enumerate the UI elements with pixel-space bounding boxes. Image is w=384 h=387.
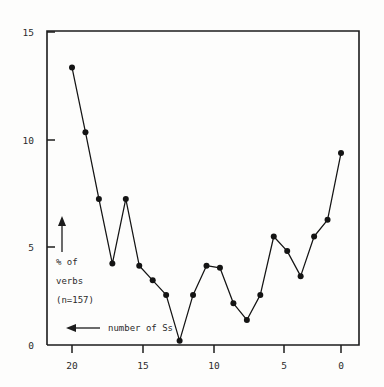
data-point bbox=[325, 217, 331, 223]
data-point bbox=[96, 196, 102, 202]
data-point bbox=[190, 292, 196, 298]
data-point bbox=[163, 292, 169, 298]
data-point bbox=[69, 64, 75, 70]
data-point bbox=[298, 273, 304, 279]
data-point bbox=[338, 150, 344, 156]
line-chart-plot: 15 10 5 0 20 15 10 5 0 % of verbs (n=157… bbox=[0, 0, 384, 387]
data-point bbox=[177, 338, 183, 344]
y-axis-ticks bbox=[47, 32, 55, 247]
data-point bbox=[244, 317, 250, 323]
data-point bbox=[284, 248, 290, 254]
data-point bbox=[204, 263, 210, 269]
data-point bbox=[109, 261, 115, 267]
y-axis-arrow-up-icon bbox=[58, 216, 66, 252]
data-point bbox=[271, 233, 277, 239]
x-axis-caption: number of Ss bbox=[108, 323, 173, 333]
y-axis-label-line-2: verbs bbox=[56, 276, 83, 286]
data-point bbox=[230, 300, 236, 306]
y-axis-label-line-1: % of bbox=[56, 257, 78, 267]
data-point bbox=[123, 196, 129, 202]
y-axis-tick-label-5: 5 bbox=[28, 242, 34, 253]
x-axis-arrow-left-icon bbox=[66, 324, 100, 332]
x-axis-tick-label-15: 15 bbox=[137, 360, 148, 371]
data-point bbox=[217, 265, 223, 271]
x-axis-tick-label-10: 10 bbox=[208, 360, 220, 371]
chart-figure: 15 10 5 0 20 15 10 5 0 % of verbs (n=157… bbox=[0, 0, 384, 387]
series-markers-group bbox=[69, 64, 344, 343]
y-axis-tick-label-10: 10 bbox=[23, 135, 35, 146]
data-point bbox=[150, 277, 156, 283]
x-axis-tick-label-0: 0 bbox=[338, 360, 344, 371]
x-axis-ticks bbox=[72, 345, 341, 353]
y-axis-tick-label-15: 15 bbox=[23, 27, 34, 38]
x-axis-tick-label-20: 20 bbox=[66, 360, 78, 371]
series-line-percent-verbs bbox=[72, 67, 341, 340]
data-point bbox=[82, 129, 88, 135]
x-axis-tick-label-5: 5 bbox=[281, 360, 287, 371]
data-point bbox=[136, 263, 142, 269]
y-axis-label-line-3: (n=157) bbox=[56, 295, 94, 305]
data-point bbox=[257, 292, 263, 298]
y-axis-tick-label-0: 0 bbox=[28, 340, 34, 351]
data-point bbox=[311, 233, 317, 239]
